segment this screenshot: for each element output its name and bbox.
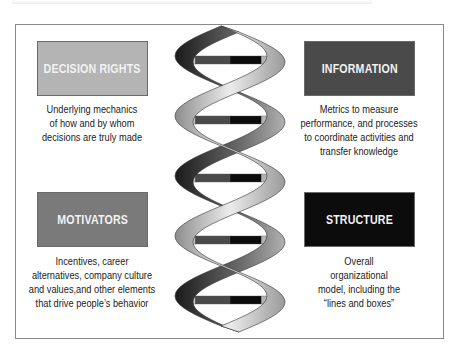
motivators-box: MOTIVATORS <box>37 192 148 247</box>
desc-line: and values,and other elements <box>26 282 158 296</box>
information-description: Metrics to measure performance, and proc… <box>293 102 425 158</box>
desc-line: of how and by whom <box>26 116 158 130</box>
desc-line: “lines and boxes” <box>293 296 425 310</box>
helix-rung-segment <box>230 236 261 244</box>
helix-rung-segment <box>230 116 261 124</box>
desc-line: decisions are truly made <box>26 130 158 144</box>
double-helix-graphic <box>170 22 290 338</box>
helix-rung-segment <box>230 296 261 304</box>
desc-line: Metrics to measure <box>293 102 425 116</box>
structure-title: STRUCTURE <box>326 213 393 227</box>
desc-line: performance, and processes <box>293 116 425 130</box>
helix-rung-segment <box>230 56 261 64</box>
helix-rung-segment <box>230 174 261 182</box>
decision-rights-description: Underlying mechanics of how and by whom … <box>26 102 158 144</box>
desc-line: to coordinate activities and <box>293 130 425 144</box>
information-box: INFORMATION <box>304 41 415 96</box>
structure-description: Overall organizational model, including … <box>293 254 425 310</box>
helix-rung-segment <box>195 116 230 124</box>
information-title: INFORMATION <box>321 62 397 76</box>
helix-rung-segment <box>195 174 230 182</box>
decision-rights-box: DECISION RIGHTS <box>37 41 148 96</box>
motivators-title: MOTIVATORS <box>57 213 128 227</box>
desc-line: organizational <box>293 268 425 282</box>
motivators-description: Incentives, career alternatives, company… <box>26 254 158 310</box>
desc-line: Incentives, career <box>26 254 158 268</box>
helix-rung-segment <box>195 236 230 244</box>
desc-line: that drive people’s behavior <box>26 296 158 310</box>
structure-box: STRUCTURE <box>304 192 415 247</box>
desc-line: model, including the <box>293 282 425 296</box>
decision-rights-title: DECISION RIGHTS <box>44 62 141 76</box>
cropped-header-strip <box>12 0 372 4</box>
helix-rung-segment <box>195 296 230 304</box>
helix-rung-segment <box>195 56 230 64</box>
desc-line: Overall <box>293 254 425 268</box>
desc-line: Underlying mechanics <box>26 102 158 116</box>
desc-line: transfer knowledge <box>293 144 425 158</box>
desc-line: alternatives, company culture <box>26 268 158 282</box>
